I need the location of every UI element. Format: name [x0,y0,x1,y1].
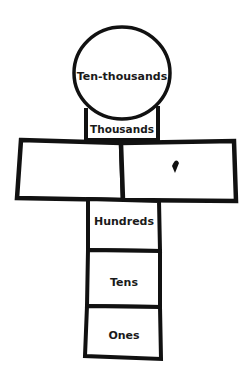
thousands-label: Thousands [90,123,154,135]
place-value-diagram: Ten-thousands Thousands Hundreds Tens On… [0,0,247,371]
ones-label: Ones [108,329,140,342]
ten-thousands-circle: Ten-thousands [74,27,170,119]
horizontal-bar [17,140,236,201]
hundreds-label: Hundreds [94,215,155,228]
ten-thousands-label: Ten-thousands [77,70,168,83]
tens-label: Tens [110,276,138,289]
left-box [17,140,123,200]
right-box [121,141,236,201]
